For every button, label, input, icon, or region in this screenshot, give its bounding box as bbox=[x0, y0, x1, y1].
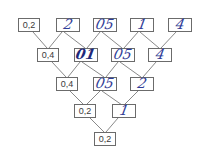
cell-value: 05 bbox=[95, 17, 115, 31]
cell-value: 4 bbox=[154, 47, 165, 61]
pyramid-cell-r2-c1: 0,4 bbox=[37, 48, 59, 62]
cell-value: 4 bbox=[174, 17, 185, 31]
pyramid-cell-r1-c2: 2 bbox=[56, 18, 80, 32]
cell-value: 0,2 bbox=[79, 107, 92, 116]
pyramid-cell-r4-c2: 1 bbox=[112, 104, 136, 118]
cell-value: 2 bbox=[136, 76, 147, 90]
pyramid-cell-r5-c1: 0,2 bbox=[94, 132, 116, 146]
cell-value: 1 bbox=[118, 103, 129, 117]
cell-value: 1 bbox=[136, 17, 147, 31]
pyramid-cell-r1-c4: 1 bbox=[130, 18, 154, 32]
pyramid-cell-r3-c1: 0,4 bbox=[56, 77, 78, 91]
pyramid-cell-r1-c5: 4 bbox=[168, 18, 192, 32]
cell-value: 05 bbox=[113, 47, 133, 61]
cell-value: 2 bbox=[62, 17, 73, 31]
cell-value: 05 bbox=[95, 76, 115, 90]
pyramid-cell-r4-c1: 0,2 bbox=[74, 104, 96, 118]
cell-value: 0,4 bbox=[61, 80, 74, 89]
pyramid-cell-r2-c4: 4 bbox=[148, 48, 172, 62]
cell-value: 0,2 bbox=[99, 135, 112, 144]
pyramid-cell-r1-c1: 0,2 bbox=[18, 18, 40, 32]
cell-value: 0,2 bbox=[23, 21, 36, 30]
pyramid-cell-r3-c2: 05 bbox=[93, 77, 117, 91]
cell-value: 01 bbox=[75, 47, 97, 61]
pyramid-cell-r2-c3: 05 bbox=[111, 48, 135, 62]
cell-value: 0,4 bbox=[42, 51, 55, 60]
pyramid-cell-r1-c3: 05 bbox=[93, 18, 117, 32]
number-pyramid-diagram: 0,2 2 05 1 4 0,4 01 05 4 0,4 05 2 0,2 1 … bbox=[0, 0, 206, 154]
pyramid-cell-r2-c2: 01 bbox=[74, 48, 98, 62]
pyramid-cell-r3-c3: 2 bbox=[130, 77, 154, 91]
